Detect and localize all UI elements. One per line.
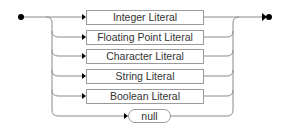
arrow-right-icon [82, 53, 86, 59]
label-string: String Literal [116, 70, 175, 82]
branch-left-2 [52, 31, 82, 37]
start-terminal-icon [18, 14, 24, 20]
arrow-right-icon [82, 34, 86, 40]
merge-right-5 [203, 90, 233, 96]
branch-left-5 [52, 90, 82, 96]
branch-left-4 [52, 70, 82, 76]
arrow-right-icon [82, 14, 86, 20]
label-character: Character Literal [106, 50, 184, 62]
merge-right-6 [170, 110, 233, 116]
label-floating: Floating Point Literal [97, 31, 193, 43]
end-terminal-icon [266, 14, 272, 20]
merge-right-vertical [233, 17, 239, 110]
merge-right-2 [203, 31, 233, 37]
arrow-right-icon [82, 93, 86, 99]
syntax-diagram: Integer Literal Floating Point Literal C… [0, 0, 283, 132]
label-boolean: Boolean Literal [110, 90, 180, 102]
arrow-right-icon [124, 113, 128, 119]
arrow-right-icon [82, 73, 86, 79]
merge-right-4 [203, 70, 233, 76]
branch-left-3 [52, 50, 82, 56]
label-null: null [141, 110, 157, 122]
merge-right-3 [203, 50, 233, 56]
label-integer: Integer Literal [113, 11, 177, 23]
